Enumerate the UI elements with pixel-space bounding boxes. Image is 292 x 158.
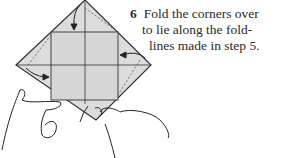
caption-line-2: to lie along the fold- — [126, 22, 292, 38]
origami-step-diagram: 6Fold the corners over to lie along the … — [0, 0, 292, 158]
caption-line-3: lines made in step 5. — [126, 38, 292, 54]
caption-line-1: 6Fold the corners over — [126, 6, 292, 22]
inner-square — [51, 32, 118, 100]
step-caption: 6Fold the corners over to lie along the … — [126, 6, 292, 54]
step-number: 6 — [130, 6, 137, 21]
